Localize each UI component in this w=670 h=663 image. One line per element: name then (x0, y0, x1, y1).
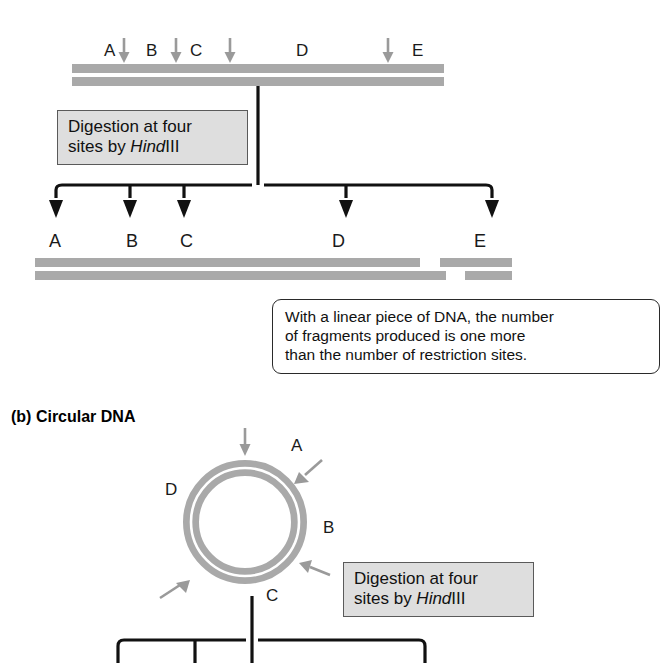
figure-canvas: A B C D E Digestion at four sites by Hin… (0, 0, 670, 663)
fragment-a-bottom-strand (35, 271, 134, 280)
fragment-label-a: A (49, 232, 61, 250)
fragment-b-bottom-strand (122, 271, 210, 280)
circular-site-label-b: B (323, 519, 334, 536)
circular-branch-bracket (0, 596, 560, 663)
fragment-c-bottom-strand (198, 271, 288, 280)
fragment-label-d: D (332, 232, 345, 250)
linear-branch-bracket (0, 86, 520, 231)
fragment-d-top-strand (258, 258, 420, 267)
circular-site-label-d: D (165, 481, 177, 498)
fragment-e-bottom-strand (465, 271, 512, 280)
cut-site-arrows (0, 36, 470, 66)
linear-dna-top-strand (72, 64, 444, 73)
fragment-c-top-strand (173, 258, 262, 267)
fragment-label-b: B (126, 232, 138, 250)
linear-note-line3: than the number of restriction sites. (285, 345, 648, 364)
linear-note-line1: With a linear piece of DNA, the number (285, 307, 648, 326)
linear-note-line2: of fragments produced is one more (285, 326, 648, 345)
fragment-d-bottom-strand (283, 271, 446, 280)
fragment-label-c: C (180, 232, 193, 250)
linear-dna-bottom-strand (72, 77, 444, 86)
fragment-label-e: E (474, 232, 486, 250)
digestion-callout-circular-line1: Digestion at four (354, 569, 523, 589)
circular-site-label-a: A (291, 437, 302, 454)
fragment-e-top-strand (440, 258, 512, 267)
linear-dna-note: With a linear piece of DNA, the number o… (272, 299, 660, 374)
